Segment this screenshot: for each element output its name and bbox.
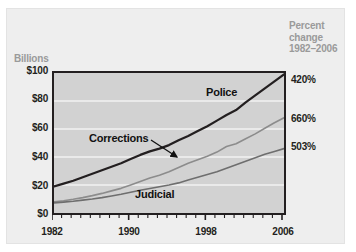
percent-change-police: 420%	[291, 74, 316, 85]
percent-change-header: Percentchange1982–2006	[289, 20, 351, 55]
corrections-leader-arrow	[150, 138, 190, 168]
y-tick-label-0: $0	[0, 209, 48, 219]
y-tick-label-80: $80	[0, 94, 48, 104]
x-tick-label-1998: 1998	[184, 226, 228, 237]
series-label-corrections: Corrections	[89, 132, 149, 144]
x-tick-label-1982: 1982	[30, 226, 74, 237]
x-axis-ticks	[52, 213, 286, 221]
figure-root: Billions $100 $80 $60 $40 $20 $0 1982 19…	[0, 0, 356, 252]
y-tick-label-40: $40	[0, 152, 48, 162]
y-axis-tick-labels: $100 $80 $60 $40 $20 $0	[0, 0, 48, 252]
percent-change-corrections: 660%	[291, 113, 316, 124]
y-tick-label-20: $20	[0, 181, 48, 191]
series-line-police	[54, 74, 284, 186]
x-tick-label-2006: 2006	[261, 226, 305, 237]
y-tick-label-100: $100	[0, 66, 48, 76]
series-label-judicial: Judicial	[135, 188, 174, 200]
series-label-police: Police	[206, 86, 237, 98]
y-tick-label-60: $60	[0, 123, 48, 133]
x-tick-label-1990: 1990	[107, 226, 151, 237]
percent-change-judicial: 503%	[291, 141, 316, 152]
